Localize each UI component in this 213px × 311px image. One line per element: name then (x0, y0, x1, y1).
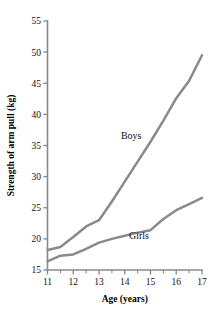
y-axis-group: 152025303540455055 (32, 16, 48, 275)
y-tick-label-55: 55 (32, 16, 42, 26)
x-tick-label-16: 16 (172, 277, 182, 287)
series-annotation-labels: BoysGirls (121, 130, 149, 241)
y-tick-label-40: 40 (32, 110, 42, 120)
series-label-girls: Girls (129, 230, 149, 241)
x-tick-label-12: 12 (69, 277, 79, 287)
y-axis-tick-labels: 152025303540455055 (32, 16, 42, 275)
x-tick-label-17: 17 (197, 277, 207, 287)
x-tick-label-14: 14 (120, 277, 130, 287)
series-line-boys (48, 55, 203, 250)
x-axis-title: Age (years) (102, 294, 148, 305)
data-series-group (48, 55, 203, 261)
x-tick-label-15: 15 (146, 277, 156, 287)
x-tick-label-11: 11 (43, 277, 52, 287)
y-tick-label-35: 35 (32, 141, 42, 151)
y-tick-label-15: 15 (32, 265, 42, 275)
y-tick-label-25: 25 (32, 203, 42, 213)
arm-pull-line-chart: 152025303540455055 11121314151617 BoysGi… (0, 0, 213, 311)
x-tick-label-13: 13 (94, 277, 104, 287)
y-axis-title: Strength of arm pull (kg) (6, 95, 17, 197)
x-axis-tick-labels: 11121314151617 (43, 277, 207, 287)
x-axis-group: 11121314151617 (43, 270, 207, 287)
y-tick-label-30: 30 (32, 172, 42, 182)
series-label-boys: Boys (121, 130, 142, 141)
series-line-girls (48, 198, 203, 262)
y-tick-label-45: 45 (32, 79, 42, 89)
y-tick-label-20: 20 (32, 234, 42, 244)
y-tick-label-50: 50 (32, 48, 42, 58)
chart-canvas: 152025303540455055 11121314151617 BoysGi… (0, 0, 213, 311)
